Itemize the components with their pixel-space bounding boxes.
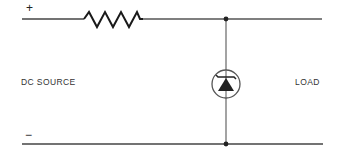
- junction-dot-bottom: [224, 142, 229, 147]
- circuit-diagram: + − DC SOURCE LOAD: [0, 0, 343, 161]
- positive-terminal-label: +: [26, 2, 33, 14]
- dc-source-label: DC SOURCE: [21, 77, 76, 87]
- junction-dot-top: [224, 17, 229, 22]
- load-label: LOAD: [295, 77, 320, 87]
- resistor-icon: [84, 12, 143, 27]
- zener-diode-icon: [212, 70, 240, 98]
- negative-terminal-label: −: [25, 129, 32, 141]
